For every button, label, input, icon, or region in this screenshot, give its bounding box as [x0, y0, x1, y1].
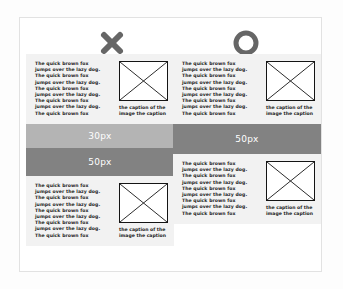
- image-caption: the caption of the image the caption: [266, 205, 315, 217]
- content-block: The quick brown fox jumps over the lazy …: [26, 54, 174, 124]
- image-placeholder-icon: [266, 161, 315, 201]
- body-line: The quick brown fox: [35, 111, 113, 117]
- body-copy: The quick brown fox jumps over the lazy …: [182, 161, 260, 217]
- circle-icon: [232, 29, 260, 57]
- gap-label: 50px: [235, 134, 258, 144]
- bad-example-column: The quick brown fox jumps over the lazy …: [26, 54, 174, 246]
- caption-line: image the caption: [119, 111, 168, 117]
- body-copy: The quick brown fox jumps over the lazy …: [35, 61, 113, 117]
- gap-bar-50px: 50px: [26, 148, 174, 176]
- image-placeholder-icon: [119, 183, 168, 223]
- image-caption: the caption of the image the caption: [119, 105, 168, 117]
- gap-bar-30px: 30px: [26, 124, 174, 148]
- comparison-panel: The quick brown fox jumps over the lazy …: [19, 17, 322, 272]
- content-block: The quick brown fox jumps over the lazy …: [173, 54, 321, 124]
- body-copy: The quick brown fox jumps over the lazy …: [35, 183, 113, 239]
- comparison-columns: The quick brown fox jumps over the lazy …: [20, 54, 321, 269]
- gap-label: 50px: [88, 157, 111, 167]
- image-caption: the caption of the image the caption: [119, 227, 168, 239]
- figure: the caption of the image the caption: [119, 61, 168, 117]
- body-line: The quick brown fox: [182, 111, 260, 117]
- figure: the caption of the image the caption: [266, 61, 315, 117]
- cross-icon: [98, 29, 126, 57]
- wireframe-canvas: The quick brown fox jumps over the lazy …: [0, 0, 343, 289]
- good-example-column: The quick brown fox jumps over the lazy …: [173, 54, 321, 224]
- content-block: The quick brown fox jumps over the lazy …: [173, 154, 321, 224]
- content-block: The quick brown fox jumps over the lazy …: [26, 176, 174, 246]
- body-line: The quick brown fox: [35, 233, 113, 239]
- figure: the caption of the image the caption: [266, 161, 315, 217]
- gap-label: 30px: [88, 131, 111, 141]
- caption-line: image the caption: [119, 233, 168, 239]
- image-placeholder-icon: [119, 61, 168, 101]
- figure: the caption of the image the caption: [119, 183, 168, 239]
- body-line: The quick brown fox: [182, 211, 260, 217]
- caption-line: image the caption: [266, 211, 315, 217]
- body-copy: The quick brown fox jumps over the lazy …: [182, 61, 260, 117]
- image-placeholder-icon: [266, 61, 315, 101]
- caption-line: image the caption: [266, 111, 315, 117]
- image-caption: the caption of the image the caption: [266, 105, 315, 117]
- gap-bar-50px: 50px: [173, 124, 321, 154]
